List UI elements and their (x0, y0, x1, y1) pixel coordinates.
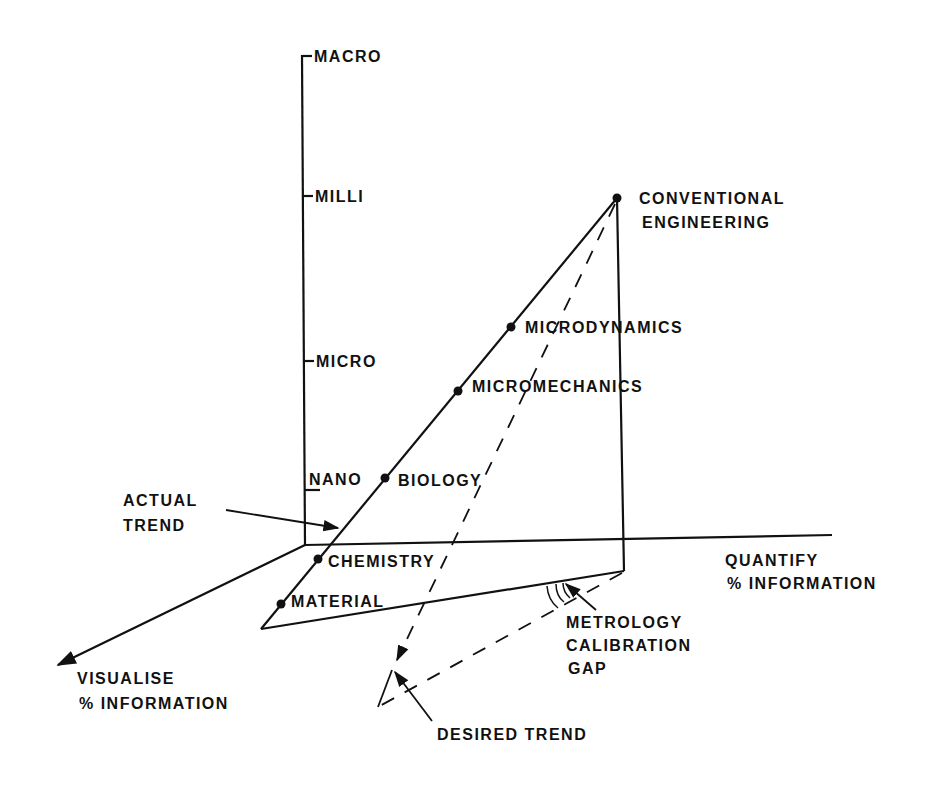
label-actual: ACTUAL (123, 492, 198, 509)
vertical-axis (302, 55, 305, 545)
label-trend: TREND (123, 517, 186, 534)
label-conventional: CONVENTIONAL (639, 190, 785, 207)
label-gap: GAP (568, 660, 607, 677)
label-visualise-info: % INFORMATION (79, 695, 229, 712)
label-quantify: QUANTIFY (725, 552, 819, 569)
tick-label-milli: MILLI (315, 188, 364, 205)
horizontal-axis (305, 535, 832, 545)
label-chemistry: CHEMISTRY (328, 553, 435, 570)
label-micromechanics: MICROMECHANICS (472, 378, 643, 395)
label-microdynamics: MICRODYNAMICS (525, 319, 683, 336)
label-visualise: VISUALISE (77, 670, 175, 687)
point-chemistry (314, 555, 323, 564)
tick-label-micro: MICRO (316, 353, 377, 370)
depth-axis (58, 545, 305, 665)
trend-diagram: MACRO MILLI MICRO NANO CONVENTIONAL ENGI… (0, 0, 943, 796)
label-material: MATERIAL (291, 593, 384, 610)
label-biology: BIOLOGY (398, 472, 482, 489)
point-microdynamics (507, 323, 516, 332)
actual-trend-arrow (226, 510, 338, 528)
tick-label-nano: NANO (309, 471, 362, 488)
desired-trend-arrow (395, 672, 432, 721)
point-conventional-engineering (613, 194, 622, 203)
desired-trend-line (397, 204, 615, 660)
gap-arrow (566, 584, 596, 610)
label-desired-trend: DESIRED TREND (437, 726, 587, 743)
point-biology (381, 474, 390, 483)
label-metrology: METROLOGY (566, 614, 683, 631)
label-calibration: CALIBRATION (566, 637, 692, 654)
actual-trend-line (261, 198, 617, 629)
tick-label-macro: MACRO (314, 48, 382, 65)
label-quantify-info: % INFORMATION (727, 575, 877, 592)
point-material (277, 600, 286, 609)
label-engineering: ENGINEERING (642, 214, 771, 231)
point-micromechanics (454, 387, 463, 396)
